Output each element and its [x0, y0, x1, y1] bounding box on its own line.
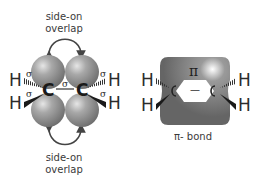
bottom-label-line1: side-on [44, 152, 84, 163]
sigma-label-cc: σ [62, 80, 68, 89]
hydrogen-left-upper: H [9, 72, 22, 89]
sigma-label-left-lower: σ [26, 90, 32, 99]
top-label-line1: side-on [44, 11, 84, 22]
sigma-label-right-lower: σ [100, 90, 106, 99]
carbon-right: C [76, 82, 88, 99]
diagram-canvas [0, 0, 259, 184]
hydrogen-right-upper: H [108, 72, 121, 89]
bottom-label-line2: overlap [44, 164, 84, 175]
pi-hydrogen-left-lower: H [141, 97, 154, 114]
sigma-bond-dash: — [188, 84, 202, 95]
pi-hydrogen-left-upper: H [141, 72, 154, 89]
top-overlap-arrow [49, 39, 81, 55]
hydrogen-left-lower: H [9, 95, 22, 112]
sigma-label-left-upper: σ [26, 70, 32, 79]
hydrogen-right-lower: H [108, 95, 121, 112]
top-label-line2: overlap [44, 23, 84, 34]
bottom-overlap-arrow [49, 128, 81, 145]
pi-bond-caption: π- bond [170, 131, 216, 142]
pi-symbol: π [189, 64, 198, 78]
pi-hydrogen-right-upper: H [238, 72, 251, 89]
sigma-label-right-upper: σ [100, 70, 106, 79]
carbon-left: C [42, 82, 54, 99]
pi-hydrogen-right-lower: H [238, 97, 251, 114]
